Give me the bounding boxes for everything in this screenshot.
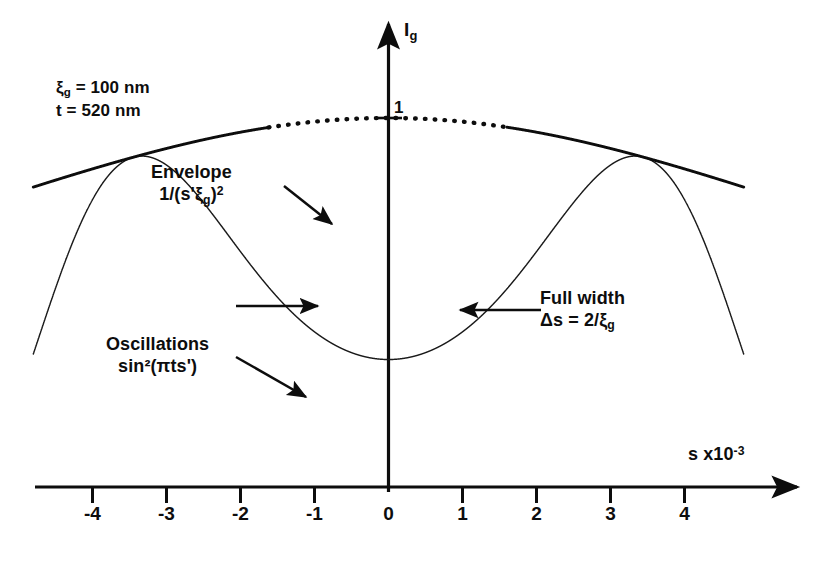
x-axis-label-text: s x10	[688, 444, 734, 464]
annotation-full-width: Full width Δs = 2/ξg	[540, 288, 625, 333]
y-axis-label-subscript: g	[409, 28, 417, 43]
envelope-leader-arrow	[284, 186, 332, 224]
annotation-oscillations: Oscillations sin²(πts')	[106, 334, 209, 378]
x-tick-label: 4	[679, 503, 690, 525]
annotation-oscillations-line2: sin²(πts')	[106, 356, 209, 378]
annotation-full-width-line2: Δs = 2/ξg	[540, 310, 625, 333]
x-tick-label: 2	[531, 503, 542, 525]
x-tick-label: -1	[306, 503, 323, 525]
x-axis-label-exponent: -3	[734, 444, 745, 458]
xi-subscript: g	[64, 86, 71, 98]
annotation-envelope: Envelope 1/(s'ξg)2	[151, 162, 232, 207]
annotation-envelope-line1: Envelope	[151, 162, 232, 184]
annotation-full-width-line1: Full width	[540, 288, 625, 310]
parameter-block: ξg = 100 nm t = 520 nm	[56, 78, 150, 124]
x-tick-label: -3	[158, 503, 175, 525]
annotation-envelope-line2: 1/(s'ξg)2	[151, 184, 232, 207]
x-tick-label: -4	[84, 503, 101, 525]
annotation-oscillations-line1: Oscillations	[106, 334, 209, 356]
y-axis-label: Ig	[404, 18, 417, 43]
xi-symbol: ξ	[56, 78, 64, 97]
x-tick-label: -2	[232, 503, 249, 525]
x-axis-label: s x10-3	[688, 444, 745, 466]
x-tick-label: 0	[383, 503, 394, 525]
extinction-distance-text: ξg = 100 nm	[56, 78, 150, 99]
fullwidth-formula-sub: g	[607, 318, 615, 332]
x-tick-label: 1	[457, 503, 468, 525]
oscillations-leader-arrow	[236, 357, 306, 397]
x-tick-label: 3	[605, 503, 616, 525]
y-axis-peak-label: 1	[394, 98, 404, 119]
envelope-formula-xi: ξ	[195, 184, 203, 204]
fullwidth-formula-pre: Δs = 2/	[540, 310, 599, 330]
envelope-formula-sub: g	[203, 193, 211, 207]
envelope-formula-pre: 1/(s'	[159, 184, 195, 204]
extinction-distance-value: = 100 nm	[76, 78, 150, 97]
diffraction-intensity-figure: ξg = 100 nm t = 520 nm Ig s x10-3 1 Enve…	[0, 0, 820, 565]
thickness-text: t = 520 nm	[56, 101, 150, 122]
envelope-formula-sup: 2	[217, 184, 224, 198]
